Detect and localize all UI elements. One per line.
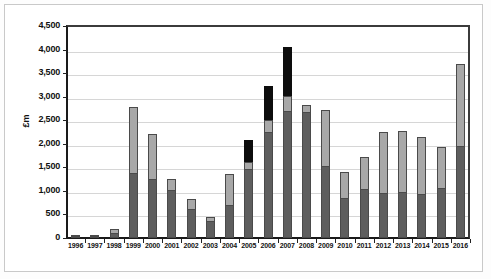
bar-segment [340, 172, 349, 198]
y-axis-tick-label: 3,000 [2, 92, 60, 101]
x-axis-tick-label: 1999 [124, 242, 143, 250]
gridline [68, 52, 468, 53]
x-axis-labels: 1996199719981999200020012002200320042005… [66, 242, 470, 256]
x-axis-tick-label: 2001 [162, 242, 181, 250]
bar-2009 [321, 110, 330, 238]
y-axis-tick-mark [63, 214, 67, 215]
x-axis-tick-label: 1998 [104, 242, 123, 250]
bar-segment [187, 209, 196, 238]
x-axis-tick-mark [335, 239, 336, 243]
x-axis-tick-label: 1997 [85, 242, 104, 250]
bar-segment [437, 147, 446, 188]
x-axis-tick-mark [181, 239, 182, 243]
bar-segment [283, 96, 292, 111]
x-axis-tick-mark [104, 239, 105, 243]
bar-segment [283, 111, 292, 238]
bar-2008 [302, 105, 311, 238]
x-axis-tick-mark [393, 239, 394, 243]
bar-segment [129, 173, 138, 238]
bar-segment [321, 166, 330, 238]
x-axis-tick-mark [162, 239, 163, 243]
x-axis-tick-mark [85, 239, 86, 243]
bar-segment [417, 137, 426, 194]
y-axis-tick-label: 1,000 [2, 186, 60, 195]
x-axis-tick-label: 2016 [451, 242, 470, 250]
x-axis-tick-mark [470, 239, 471, 243]
bar-segment [187, 199, 196, 209]
bar-1996 [71, 235, 80, 238]
bar-segment [148, 179, 157, 238]
x-axis-tick-label: 2008 [297, 242, 316, 250]
x-axis-tick-label: 2005 [239, 242, 258, 250]
bar-2013 [398, 131, 407, 238]
y-axis-tick-mark [63, 144, 67, 145]
bar-segment [264, 86, 273, 120]
x-axis-tick-label: 1996 [66, 242, 85, 250]
x-axis-tick-mark [297, 239, 298, 243]
bar-segment [167, 179, 176, 191]
y-axis-tick-mark [63, 50, 67, 51]
bar-segment [321, 110, 330, 166]
bar-1998 [110, 229, 119, 238]
x-axis-tick-mark [451, 239, 452, 243]
x-axis-tick-label: 2014 [412, 242, 431, 250]
bar-segment [264, 132, 273, 238]
bar-segment [456, 64, 465, 146]
bar-segment [167, 190, 176, 238]
bar-segment [456, 146, 465, 238]
bar-segment [302, 105, 311, 112]
bar-segment [283, 47, 292, 96]
bar-segment [244, 169, 253, 238]
y-axis-tick-label: 3,500 [2, 68, 60, 77]
x-axis-tick-mark [220, 239, 221, 243]
y-axis-tick-label: 2,500 [2, 115, 60, 124]
bar-segment [398, 131, 407, 192]
y-axis-tick-label: 2,000 [2, 139, 60, 148]
x-axis-tick-mark [374, 239, 375, 243]
x-axis-tick-mark [124, 239, 125, 243]
y-axis-tick-mark [63, 191, 67, 192]
bar-segment [225, 174, 234, 205]
bar-2006 [264, 86, 273, 238]
x-axis-tick-label: 2011 [355, 242, 374, 250]
x-axis-tick-mark [316, 239, 317, 243]
y-axis-tick-mark [63, 120, 67, 121]
bar-segment [129, 107, 138, 172]
bar-segment [302, 112, 311, 238]
bar-2016 [456, 64, 465, 238]
x-axis-tick-mark [432, 239, 433, 243]
y-axis-tick-label: 1,500 [2, 162, 60, 171]
bar-segment [90, 236, 99, 238]
y-axis-tick-mark [63, 97, 67, 98]
y-axis-tick-label: 4,500 [2, 21, 60, 30]
bar-2005 [244, 140, 253, 238]
gridline [68, 75, 468, 76]
bar-segment [379, 193, 388, 238]
x-axis-tick-label: 2003 [201, 242, 220, 250]
chart-screenshot: £m 1996199719981999200020012002200320042… [0, 0, 491, 279]
y-axis-tick-label: 4,000 [2, 45, 60, 54]
bar-segment [71, 236, 80, 238]
bar-segment [340, 198, 349, 239]
bar-segment [148, 134, 157, 179]
bar-segment [360, 189, 369, 238]
bar-2014 [417, 137, 426, 238]
bar-segment [437, 188, 446, 238]
x-axis-tick-mark [355, 239, 356, 243]
x-axis-tick-label: 2015 [432, 242, 451, 250]
bar-2002 [187, 199, 196, 238]
x-axis-tick-mark [258, 239, 259, 243]
y-axis-tick-label: 0 [2, 233, 60, 242]
x-axis-tick-label: 2004 [220, 242, 239, 250]
bar-segment [110, 233, 119, 238]
x-axis-tick-label: 2000 [143, 242, 162, 250]
x-axis-tick-label: 2002 [181, 242, 200, 250]
bar-segment [360, 157, 369, 190]
x-axis-tick-label: 2009 [316, 242, 335, 250]
x-axis-tick-label: 2007 [278, 242, 297, 250]
x-axis-tick-label: 2013 [393, 242, 412, 250]
x-axis-tick-label: 2012 [374, 242, 393, 250]
bar-2004 [225, 174, 234, 238]
bar-segment [206, 221, 215, 238]
bar-1999 [129, 107, 138, 238]
